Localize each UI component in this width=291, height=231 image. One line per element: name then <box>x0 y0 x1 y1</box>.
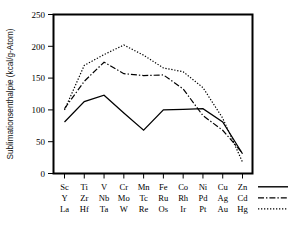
x-label-ru: Ru <box>158 193 169 203</box>
x-label-ta: Ta <box>100 204 109 214</box>
x-label-hg: Hg <box>237 204 248 214</box>
x-label-pt: Pt <box>199 204 207 214</box>
x-label-co: Co <box>178 182 188 192</box>
x-label-ti: Ti <box>81 182 89 192</box>
x-label-hf: Hf <box>80 204 89 214</box>
y-axis-title: Sublimationsenthalpie (kcal/g-Atom) <box>6 28 15 159</box>
x-label-ag: Ag <box>217 193 228 203</box>
figure-container: Sublimationsenthalpie (kcal/g-Atom) 250 … <box>0 0 291 231</box>
y-tick-label-200: 200 <box>32 42 46 52</box>
x-label-nb: Nb <box>99 193 110 203</box>
x-label-y: Y <box>61 193 67 203</box>
x-label-w: W <box>120 204 129 214</box>
x-label-au: Au <box>217 204 228 214</box>
x-label-cu: Cu <box>218 182 229 192</box>
y-tick-label-0: 0 <box>41 169 46 179</box>
x-label-os: Os <box>159 204 169 214</box>
x-label-ni: Ni <box>199 182 208 192</box>
y-tick-label-50: 50 <box>36 137 46 147</box>
x-label-fe: Fe <box>159 182 168 192</box>
y-tick-label-150: 150 <box>32 73 46 83</box>
x-label-cr: Cr <box>120 182 129 192</box>
x-label-zr: Zr <box>80 193 88 203</box>
x-label-re: Re <box>139 204 149 214</box>
y-tick-label-250: 250 <box>32 10 46 20</box>
x-label-cd: Cd <box>237 193 248 203</box>
x-label-ir: Ir <box>180 204 186 214</box>
y-tick-label-100: 100 <box>32 105 46 115</box>
x-label-sc: Sc <box>60 182 69 192</box>
x-label-rh: Rh <box>178 193 189 203</box>
x-label-v: V <box>101 182 108 192</box>
x-label-zn: Zn <box>238 182 248 192</box>
x-label-mn: Mn <box>138 182 151 192</box>
x-label-pd: Pd <box>198 193 208 203</box>
sublimation-enthalpy-line-chart: Sublimationsenthalpie (kcal/g-Atom) 250 … <box>0 0 291 231</box>
x-label-mo: Mo <box>118 193 130 203</box>
x-label-la: La <box>60 204 69 214</box>
x-label-tc: Tc <box>139 193 148 203</box>
